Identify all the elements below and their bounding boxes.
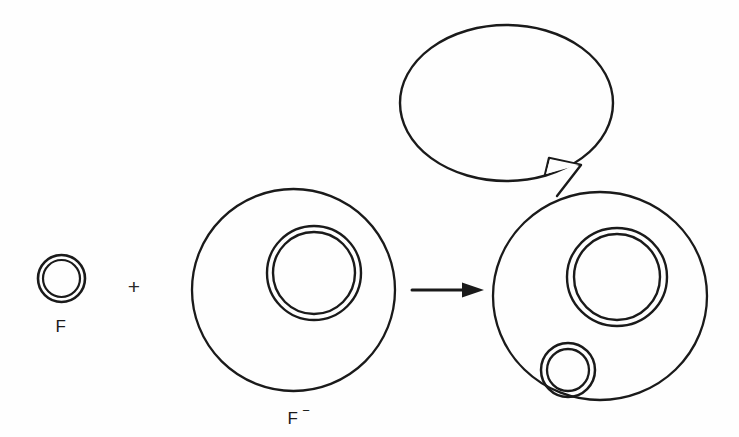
conjugation-diagram: F + F −: [0, 0, 739, 437]
plus-operator: +: [128, 275, 140, 298]
f-plasmid-outer-circle: [38, 255, 85, 302]
arrow-head: [462, 283, 484, 298]
f-plasmid-label: F: [56, 317, 67, 336]
transferred-plasmid-inner: [547, 349, 589, 391]
speech-bubble-body: [400, 25, 613, 181]
recipient-cell-label: F: [288, 409, 299, 428]
diagram-canvas: F + F −: [0, 0, 739, 437]
recipient-cell-group: F −: [192, 189, 395, 428]
recipient-cell-superscript: −: [302, 403, 310, 418]
recipient-nucleus-outer: [267, 226, 361, 320]
product-nucleus-outer: [567, 228, 667, 326]
recipient-nucleus-inner: [273, 232, 355, 314]
transferred-plasmid-outer: [541, 343, 595, 397]
f-plasmid-inner-circle: [43, 260, 80, 297]
product-cell-group: [493, 192, 707, 400]
product-nucleus-inner: [574, 234, 660, 320]
f-plasmid-group: F: [38, 255, 85, 336]
product-cell-membrane: [493, 192, 707, 400]
recipient-cell-membrane: [192, 189, 395, 391]
reaction-arrow: [412, 283, 484, 298]
speech-bubble-group: [400, 25, 613, 196]
